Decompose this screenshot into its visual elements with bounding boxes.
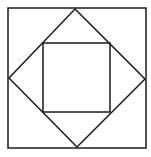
nested-squares-diagram bbox=[0, 0, 151, 157]
diamond bbox=[9, 9, 145, 147]
inner-square bbox=[43, 43, 110, 112]
outer-square bbox=[8, 8, 146, 148]
